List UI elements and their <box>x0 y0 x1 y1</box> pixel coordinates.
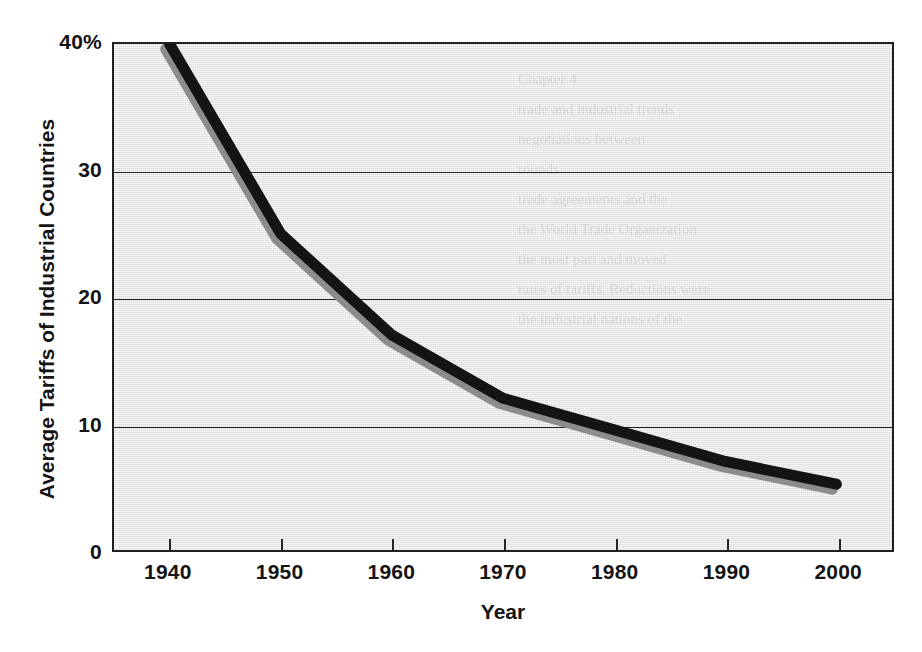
x-tick-label-1960: 1960 <box>368 560 416 584</box>
x-tick-label-1940: 1940 <box>144 560 192 584</box>
series-line-tariff <box>170 44 837 484</box>
y-tick-20: 20 <box>78 285 102 309</box>
x-tick-label-2000: 2000 <box>814 560 862 584</box>
series-line-shadow <box>166 49 833 489</box>
plot-area: Chapter 4 trade and industrial trends ne… <box>112 42 894 552</box>
y-tick-0: 0 <box>90 540 102 564</box>
y-axis-title: Average Tariffs of Industrial Countries <box>35 99 59 519</box>
y-tick-30: 30 <box>78 158 102 182</box>
x-tick-label-1970: 1970 <box>479 560 527 584</box>
x-axis-title: Year <box>112 600 894 624</box>
x-tick-label-1990: 1990 <box>703 560 751 584</box>
x-tick-label-1950: 1950 <box>256 560 304 584</box>
x-tick-label-1980: 1980 <box>591 560 639 584</box>
y-tick-40: 40% <box>59 30 102 54</box>
y-tick-10: 10 <box>78 413 102 437</box>
data-series-layer <box>114 44 892 550</box>
chart-figure: 0 10 20 30 40% Average Tariffs of Indust… <box>0 0 922 652</box>
